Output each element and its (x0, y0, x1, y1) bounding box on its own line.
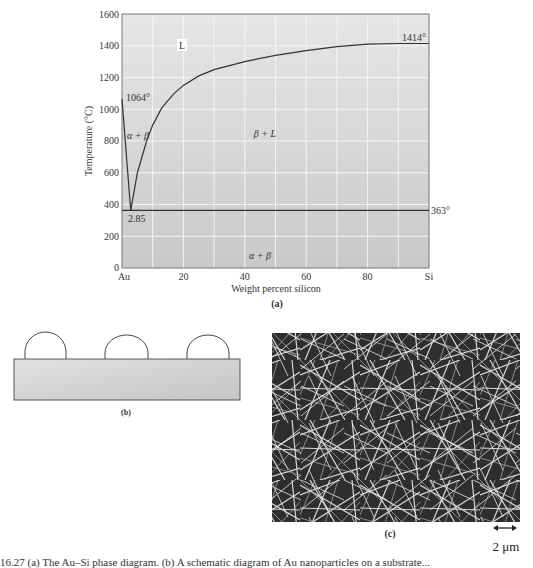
x-axis-ticks: Au 20 40 60 80 Si (118, 271, 434, 282)
svg-text:800: 800 (104, 135, 119, 146)
si-melting-annotation: 1414° (402, 32, 426, 43)
svg-text:80: 80 (363, 271, 373, 282)
svg-text:40: 40 (240, 271, 250, 282)
svg-text:1000: 1000 (99, 104, 119, 115)
nanoparticle-schematic-panel: (b) (14, 332, 240, 417)
svg-text:60: 60 (301, 271, 311, 282)
gold-droplet-2 (105, 335, 148, 359)
gold-droplet-1 (25, 332, 66, 359)
eutectic-comp-annotation: 2.85 (128, 213, 146, 224)
svg-text:200: 200 (104, 231, 119, 242)
svg-text:400: 400 (104, 199, 119, 210)
x-axis-label: Weight percent silicon (231, 283, 321, 294)
liquid-region-label: L (179, 40, 185, 51)
alpha-beta-left-label: α + β (127, 130, 149, 141)
figure-caption: 16.27 (a) The Au–Si phase diagram. (b) A… (0, 556, 533, 568)
sem-image-panel: (c) 2 μm (272, 333, 520, 554)
au-melting-annotation: 1064° (126, 92, 150, 103)
beta-liquid-region-label: β + L (253, 128, 277, 139)
svg-text:Si: Si (425, 271, 434, 282)
y-axis-label: Temperature (°C) (83, 106, 95, 176)
scale-bar-arrow-icon (493, 525, 517, 531)
svg-text:600: 600 (104, 167, 119, 178)
substrate (14, 359, 240, 400)
svg-text:Au: Au (118, 271, 130, 282)
panel-b-label: (b) (121, 408, 131, 417)
phase-diagram-panel: 0 200 400 600 800 1000 1200 1400 1600 Au… (83, 9, 450, 310)
svg-text:20: 20 (178, 271, 188, 282)
y-axis-ticks: 0 200 400 600 800 1000 1200 1400 1600 (99, 9, 119, 273)
alpha-beta-bottom-label: α + β (249, 250, 271, 261)
svg-text:1600: 1600 (99, 9, 119, 20)
eutectic-temp-annotation: 363° (431, 205, 450, 216)
sem-micrograph-overlay (272, 333, 520, 522)
scale-bar-label: 2 μm (493, 539, 520, 554)
panel-a-label: (a) (271, 298, 283, 310)
svg-text:1400: 1400 (99, 40, 119, 51)
gold-droplet-3 (187, 335, 229, 359)
svg-text:1200: 1200 (99, 72, 119, 83)
panel-c-label: (c) (384, 528, 395, 540)
